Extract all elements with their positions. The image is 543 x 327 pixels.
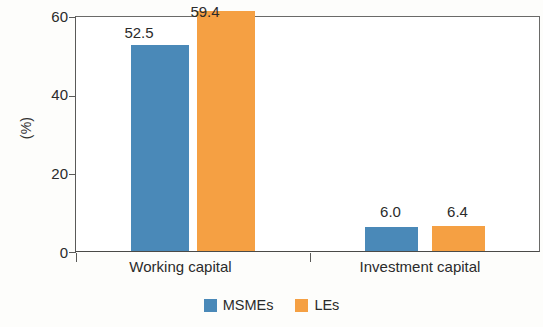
legend-label-msmes: MSMEs bbox=[223, 298, 274, 313]
bar-working-capital-msmes[interactable] bbox=[131, 45, 189, 252]
legend-swatch-icon-msmes bbox=[204, 299, 217, 312]
legend-swatch-icon-les bbox=[295, 299, 308, 312]
x-category-label-investment-capital: Investment capital bbox=[350, 259, 490, 274]
bar-value-label-investment-capital-les: 6.4 bbox=[431, 204, 484, 219]
bar-investment-capital-msmes[interactable] bbox=[365, 227, 418, 251]
y-tick-mark-40 bbox=[69, 96, 76, 97]
y-axis-title: (%) bbox=[6, 108, 46, 148]
bar-chart-figure: (%) 60 40 20 0 52.5 59.4 bbox=[0, 0, 543, 327]
bar-value-label-working-capital-msmes: 52.5 bbox=[110, 25, 168, 40]
y-tick-mark-60 bbox=[69, 17, 76, 18]
bar-investment-capital-les[interactable] bbox=[432, 226, 485, 251]
y-tick-label-20: 20 bbox=[34, 166, 68, 181]
y-tick-mark-20 bbox=[69, 174, 76, 175]
y-tick-label-60: 60 bbox=[34, 9, 68, 24]
y-tick-mark-0 bbox=[69, 252, 76, 253]
legend-label-les: LEs bbox=[314, 298, 339, 313]
legend-item-msmes[interactable]: MSMEs bbox=[204, 298, 274, 313]
legend-item-les[interactable]: LEs bbox=[295, 298, 339, 313]
bar-value-label-investment-capital-msmes: 6.0 bbox=[364, 204, 417, 219]
x-tick-mark-middle bbox=[310, 253, 311, 262]
bar-working-capital-les[interactable] bbox=[197, 11, 255, 251]
x-category-label-working-capital: Working capital bbox=[118, 259, 243, 274]
y-tick-label-40: 40 bbox=[34, 87, 68, 102]
y-tick-label-0: 0 bbox=[34, 245, 68, 260]
x-tick-mark-start bbox=[76, 253, 77, 262]
bar-value-label-working-capital-les: 59.4 bbox=[176, 4, 234, 19]
chart-legend: MSMEs LEs bbox=[0, 298, 543, 313]
